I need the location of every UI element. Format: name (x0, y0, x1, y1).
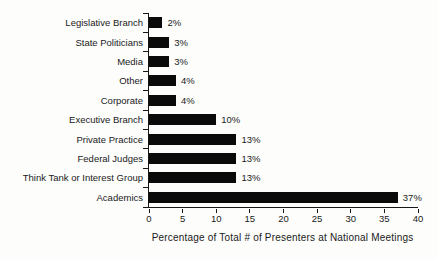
x-axis-tick-label: 40 (413, 213, 424, 224)
y-axis-tick (143, 207, 148, 208)
bar-value-label: 4% (181, 75, 195, 86)
y-axis-tick (143, 32, 148, 33)
x-axis-tick-label: 25 (312, 213, 323, 224)
y-axis-tick (143, 110, 148, 111)
bar (149, 75, 176, 86)
category-label: Federal Judges (0, 149, 143, 168)
bar (149, 56, 169, 67)
category-label: Legislative Branch (0, 13, 143, 32)
category-label: Private Practice (0, 129, 143, 148)
y-axis-tick (143, 90, 148, 91)
category-label: State Politicians (0, 32, 143, 51)
bar-value-label: 10% (221, 114, 240, 125)
category-label: Other (0, 71, 143, 90)
y-axis-tick (143, 148, 148, 149)
category-label: Corporate (0, 91, 143, 110)
bar-value-label: 13% (241, 134, 260, 145)
x-axis-title: Percentage of Total # of Presenters at N… (140, 232, 425, 243)
y-axis-tick (143, 51, 148, 52)
bar (149, 134, 236, 145)
x-axis-tick-label: 15 (245, 213, 256, 224)
bar (149, 95, 176, 106)
bar (149, 192, 398, 203)
bar-value-label: 3% (174, 56, 188, 67)
category-label: Academics (0, 188, 143, 207)
y-axis-tick (143, 168, 148, 169)
y-axis-tick (143, 71, 148, 72)
category-label: Media (0, 52, 143, 71)
x-axis-tick-label: 0 (146, 213, 151, 224)
x-axis-tick-label: 10 (211, 213, 222, 224)
x-axis-tick-label: 35 (379, 213, 390, 224)
category-label: Think Tank or Interest Group (0, 168, 143, 187)
bar-value-label: 2% (167, 17, 181, 28)
y-axis-tick (143, 129, 148, 130)
x-axis-tick-label: 5 (180, 213, 185, 224)
bar-value-label: 4% (181, 95, 195, 106)
bar-value-label: 13% (241, 153, 260, 164)
category-axis-labels: Legislative BranchState PoliticiansMedia… (0, 13, 143, 207)
bar (149, 172, 236, 183)
y-axis-tick (143, 187, 148, 188)
bar (149, 37, 169, 48)
x-axis-tick-label: 20 (278, 213, 289, 224)
bar (149, 153, 236, 164)
bar (149, 17, 162, 28)
category-label: Executive Branch (0, 110, 143, 129)
bar-value-label: 37% (403, 192, 422, 203)
bar (149, 114, 216, 125)
bar-value-label: 13% (241, 172, 260, 183)
x-axis-tick-label: 30 (345, 213, 356, 224)
bar-chart-figure: Legislative BranchState PoliticiansMedia… (0, 0, 437, 259)
y-axis-tick (143, 13, 148, 14)
plot-area: 2%3%3%4%4%10%13%13%13%37%051015202530354… (148, 13, 418, 208)
bar-value-label: 3% (174, 37, 188, 48)
